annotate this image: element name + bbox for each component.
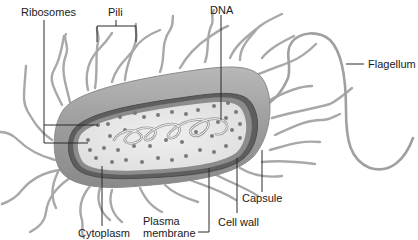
plasma-membrane-label-line2: membrane (143, 227, 196, 239)
plasma-membrane-label-line1: Plasma (143, 215, 180, 227)
flagellum-shape (262, 33, 413, 169)
cell-wall-label: Cell wall (218, 216, 259, 228)
bacterial-cell-diagram: Ribosomes Pili DNA Flagellum Capsule Cel… (0, 0, 418, 240)
diagram-canvas (0, 0, 418, 240)
pili-leader (97, 26, 136, 42)
flagellum-label: Flagellum (368, 58, 416, 70)
dna-label: DNA (210, 4, 233, 16)
capsule-label: Capsule (242, 192, 282, 204)
ribosomes-label: Ribosomes (21, 6, 76, 18)
pili-label: Pili (108, 6, 123, 18)
cytoplasm-label: Cytoplasm (78, 227, 130, 239)
